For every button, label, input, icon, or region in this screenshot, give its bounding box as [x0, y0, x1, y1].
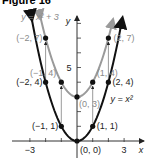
equation-label-black: y = x² [109, 94, 133, 104]
point-label: (−2, 4) [16, 77, 42, 87]
x-tick-label: −3 [25, 145, 35, 155]
point-label: (0, 3) [79, 99, 100, 109]
point-marker [43, 80, 48, 85]
x-tick-label: 3 [122, 145, 127, 155]
point-label: (1, 1) [97, 121, 118, 131]
point-marker [59, 80, 64, 85]
x-axis-label: x [138, 145, 144, 155]
point-marker [90, 124, 95, 129]
point-marker [59, 124, 64, 129]
point-label: (2, 7) [113, 33, 134, 43]
parabola-chart: −335xy(−2, 7)(−1, 4)(0, 3)(1, 4)(2, 7)(−… [0, 0, 149, 163]
point-marker [43, 36, 48, 41]
point-label: (0, 0) [80, 145, 101, 155]
y-axis-label: y [65, 16, 71, 26]
point-marker [106, 80, 111, 85]
point-label: (2, 4) [112, 77, 133, 87]
point-marker [106, 36, 111, 41]
point-label: (−1, 1) [32, 121, 58, 131]
point-marker [90, 80, 95, 85]
equation-label-gray: y = x² + 3 [20, 12, 59, 22]
y-tick-label: 5 [66, 63, 71, 73]
point-label: (−2, 7) [16, 33, 42, 43]
point-marker [74, 138, 79, 143]
